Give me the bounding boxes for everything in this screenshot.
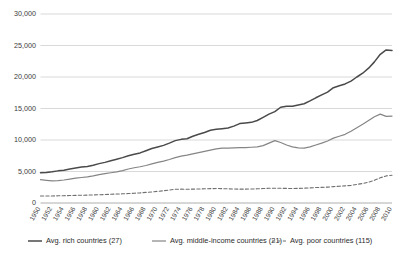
chart-container: 05,00010,00015,00020,00025,00030,000 195…	[0, 0, 397, 253]
y-tick-label: 15,000	[14, 104, 36, 113]
series-line-1	[41, 114, 393, 181]
y-tick-label: 10,000	[14, 135, 36, 144]
x-tick-label: 2010	[379, 205, 393, 221]
series-line-0	[41, 50, 393, 173]
legend-label-1: Avg. middle-income countries (21)	[170, 236, 282, 245]
data-series	[41, 50, 393, 196]
y-tick-label: 5,000	[18, 167, 36, 176]
y-axis-tick-labels: 05,00010,00015,00020,00025,00030,000	[14, 9, 36, 207]
gridlines	[41, 14, 393, 203]
x-axis-tick-labels: 1950195219541956195819601962196419661968…	[28, 205, 393, 221]
y-tick-label: 25,000	[14, 41, 36, 50]
y-tick-label: 30,000	[14, 9, 36, 18]
y-tick-label: 20,000	[14, 72, 36, 81]
series-line-2	[41, 175, 393, 196]
line-chart: 05,00010,00015,00020,00025,00030,000 195…	[0, 0, 397, 253]
legend-label-0: Avg. rich countries (27)	[46, 236, 122, 245]
legend-label-2: Avg. poor countries (115)	[290, 236, 372, 245]
chart-legend: Avg. rich countries (27)Avg. middle-inco…	[28, 236, 372, 245]
